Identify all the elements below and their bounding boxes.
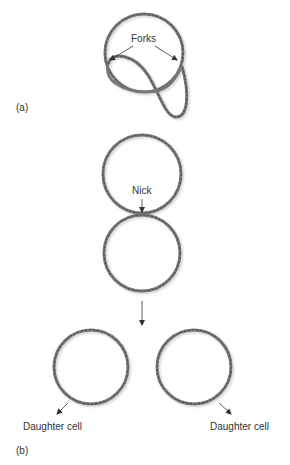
nick-label: Nick [132, 185, 151, 196]
forks-label: Forks [131, 33, 156, 44]
daughter-cell-label-left: Daughter cell [23, 421, 82, 432]
daughter-circle-left [54, 330, 128, 404]
theta-structure [105, 14, 187, 117]
panel-a-label: (a) [16, 102, 28, 113]
replication-diagram [0, 0, 290, 465]
fork-arrows [110, 46, 177, 60]
daughter-cell-label-right: Daughter cell [210, 421, 269, 432]
daughter-circle-right [157, 330, 231, 404]
panel-b-label: (b) [16, 445, 28, 456]
daughter-arrow-left [57, 403, 68, 414]
daughter-arrow-right [219, 403, 231, 414]
lower-circle [104, 215, 180, 291]
